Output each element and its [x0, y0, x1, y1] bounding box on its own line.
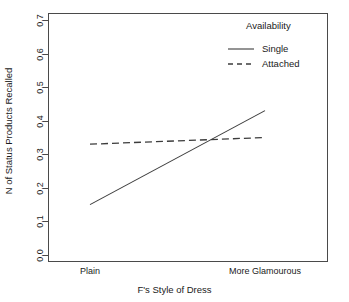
legend-item-attached: Attached	[228, 57, 326, 70]
legend-label-single: Single	[262, 44, 288, 54]
legend-label-attached: Attached	[262, 59, 300, 69]
series-line-single	[90, 111, 265, 205]
legend-key-dashed-line-icon	[228, 59, 254, 69]
legend-key-solid-line-icon	[228, 44, 254, 54]
legend-item-single: Single	[228, 42, 326, 55]
interaction-plot-figure: 0.0 0.1 0.2 0.3 0.4 0.5 0.6 0.7 N of Sta…	[0, 0, 349, 302]
series-line-attached	[90, 138, 265, 145]
legend-title: Availability	[228, 20, 326, 31]
legend: Availability Single Attached	[228, 20, 326, 72]
